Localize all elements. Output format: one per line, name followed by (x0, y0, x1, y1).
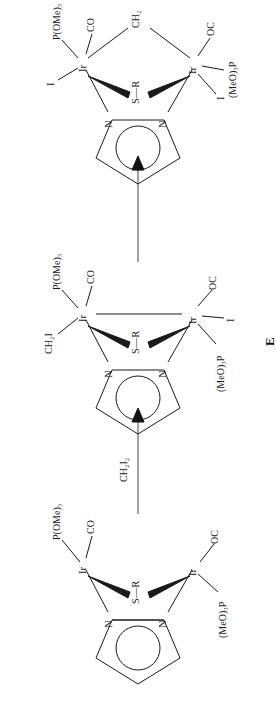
ligand-top-carbonyl: CO (86, 520, 96, 534)
structure-3-drawing (0, 0, 276, 216)
metal-ir-bottom: Ir (188, 67, 199, 74)
ligand-bottom-phosphite: (MeO)₃P (218, 602, 228, 638)
reaction-scheme-canvas: N N S—R Ir Ir P(OMe)₃ CO (MeO)₃P OC CH₂I… (0, 0, 276, 716)
ring-nitrogen-bottom: N (158, 120, 169, 128)
bridge-sulfur-r: S—R (131, 581, 142, 604)
ring-nitrogen-top: N (104, 120, 115, 128)
bridge-sulfur-r: S—R (131, 81, 142, 104)
metal-ir-top: Ir (78, 315, 89, 322)
metal-ir-top: Ir (78, 65, 89, 72)
ring-nitrogen-bottom: N (158, 370, 169, 378)
ligand-bottom-carbonyl: OC (210, 530, 220, 544)
ligand-bottom-iodide: I (226, 319, 236, 322)
metal-ir-bottom: Ir (188, 569, 199, 576)
ring-nitrogen-bottom: N (158, 620, 169, 628)
ligand-top-carbonyl: CO (86, 18, 96, 32)
ligand-bottom-phosphite: (MeO)₃P (228, 62, 238, 98)
compound-label-e: E (262, 337, 276, 346)
metal-ir-top: Ir (78, 567, 89, 574)
ligand-top-carbonyl: CO (86, 270, 96, 284)
bridging-methylene: CH₂ (131, 11, 141, 28)
metal-ir-bottom: Ir (188, 317, 199, 324)
ligand-bottom-carbonyl: OC (206, 22, 216, 36)
ligand-top-iodomethyl: CH₂I (44, 333, 54, 354)
ligand-bottom-carbonyl: OC (208, 276, 218, 290)
structure-3: N N S—R Ir Ir I P(OMe)₃ CO I (MeO)₃P OC … (0, 0, 276, 216)
ligand-bottom-phosphite: (MeO)₃P (216, 356, 226, 392)
ligand-bottom-iodide: I (216, 97, 226, 100)
ligand-top-iodide: I (46, 83, 56, 86)
ring-nitrogen-top: N (104, 620, 115, 628)
ligand-top-phosphite: P(OMe)₃ (52, 4, 62, 40)
bridge-sulfur-r: S—R (131, 331, 142, 354)
ring-nitrogen-top: N (104, 370, 115, 378)
